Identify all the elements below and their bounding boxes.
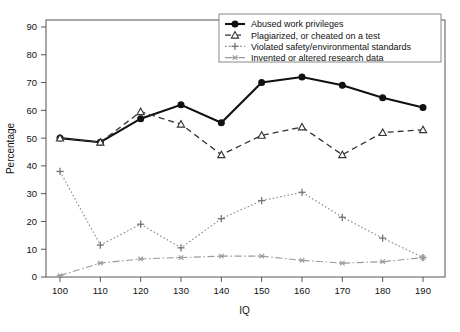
y-tick-label: 80 [26, 49, 37, 60]
series-3 [57, 254, 426, 278]
x-tick-label: 150 [254, 285, 270, 296]
y-tick-label: 10 [26, 244, 37, 255]
x-tick-label: 180 [375, 285, 391, 296]
x-tick-label: 120 [133, 285, 149, 296]
x-tick-label: 190 [415, 285, 431, 296]
legend: Abused work privilegesPlagiarized, or ch… [219, 14, 441, 63]
y-tick-label: 70 [26, 77, 37, 88]
x-tick-label: 170 [334, 285, 350, 296]
series-0 [57, 74, 426, 145]
series-2 [56, 168, 426, 261]
legend-label: Abused work privileges [251, 19, 344, 29]
x-tick-label: 130 [173, 285, 189, 296]
x-axis: 100110120130140150160170180190 [52, 277, 431, 296]
y-tick-label: 50 [26, 133, 37, 144]
y-axis-title: Percentage [5, 122, 16, 174]
legend-item-2[interactable]: Violated safety/environmental standards [225, 42, 411, 52]
y-tick-label: 90 [26, 21, 37, 32]
x-tick-label: 160 [294, 285, 310, 296]
legend-label: Plagiarized, or cheated on a test [251, 31, 381, 41]
y-tick-label: 30 [26, 188, 37, 199]
y-tick-label: 60 [26, 105, 37, 116]
line-chart: 0102030405060708090100110120130140150160… [0, 0, 460, 332]
x-tick-label: 110 [93, 285, 108, 296]
legend-label: Violated safety/environmental standards [251, 42, 411, 52]
y-axis: 0102030405060708090 [26, 21, 46, 282]
x-tick-label: 140 [213, 285, 229, 296]
legend-label: Invented or altered research data [251, 53, 384, 63]
chart-canvas: 0102030405060708090100110120130140150160… [0, 0, 460, 332]
y-tick-label: 0 [32, 271, 37, 282]
y-tick-label: 20 [26, 216, 37, 227]
y-tick-label: 40 [26, 160, 37, 171]
x-axis-title: IQ [239, 305, 250, 316]
series-1 [56, 108, 426, 158]
x-tick-label: 100 [52, 285, 68, 296]
